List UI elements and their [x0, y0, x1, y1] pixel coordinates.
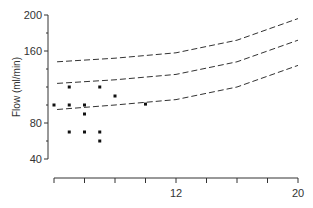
x-tick-label: 12	[170, 187, 182, 199]
data-point	[68, 104, 71, 107]
y-tick-label: 80	[30, 117, 42, 129]
data-point	[83, 113, 86, 116]
x-tick-label: 20	[292, 187, 304, 199]
data-point	[98, 86, 101, 89]
y-axis-label: Flow (ml/min)	[11, 57, 22, 117]
curve-lower	[57, 65, 298, 109]
data-point	[68, 131, 71, 134]
curve-upper	[57, 19, 298, 62]
y-tick-label: 200	[24, 9, 42, 21]
y-tick-label: 160	[24, 45, 42, 57]
data-point	[68, 86, 71, 89]
scatter-chart: 4080160200Flow (ml/min)1220	[0, 0, 313, 208]
data-point	[144, 103, 147, 106]
data-point	[114, 95, 117, 98]
data-point	[98, 140, 101, 143]
y-tick-label: 40	[30, 153, 42, 165]
data-point	[83, 104, 86, 107]
curve-mean	[57, 40, 298, 83]
data-point	[53, 104, 56, 107]
data-point	[98, 131, 101, 134]
data-point	[83, 131, 86, 134]
